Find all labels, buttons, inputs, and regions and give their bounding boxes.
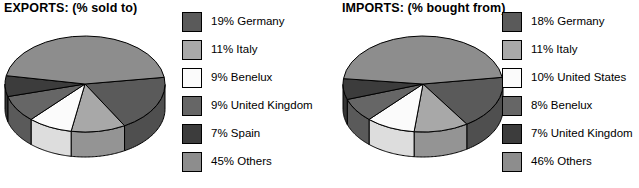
legend-swatch [502,40,522,60]
imports-legend: 18% Germany11% Italy10% United States8% … [502,8,639,176]
exports-chart-title: EXPORTS: (% sold to) [4,1,137,15]
legend-label: 7% Spain [211,128,260,140]
legend-item: 9% United Kingdom [182,92,327,120]
exports-pie-chart [0,14,180,186]
legend-label: 18% Germany [531,16,605,28]
pie-top-faces [5,36,165,132]
legend-label: 10% United States [531,72,626,84]
pie-top-faces [343,36,503,132]
legend-item: 8% Benelux [502,92,639,120]
legend-swatch [502,96,522,116]
legend-swatch [182,68,202,88]
legend-swatch [182,124,202,144]
legend-swatch [502,12,522,32]
legend-item: 9% Benelux [182,64,327,92]
legend-swatch [502,152,522,172]
legend-label: 45% Others [211,156,272,168]
pie-svg [0,14,180,186]
legend-item: 19% Germany [182,8,327,36]
exports-legend: 19% Germany11% Italy9% Benelux9% United … [182,8,327,176]
pie-charts-figure: EXPORTS: (% sold to) 19% Germany11% Ital… [0,0,639,188]
legend-swatch [182,96,202,116]
imports-chart-title: IMPORTS: (% bought from) [342,1,505,15]
legend-item: 10% United States [502,64,639,92]
legend-swatch [182,12,202,32]
legend-swatch [182,152,202,172]
pie-slice-others [6,36,164,84]
exports-chart-panel: EXPORTS: (% sold to) 19% Germany11% Ital… [0,0,320,188]
legend-label: 8% Benelux [531,100,592,112]
imports-pie-chart [338,14,518,186]
pie-svg [338,14,518,186]
legend-label: 9% Benelux [211,72,272,84]
legend-item: 11% Italy [502,36,639,64]
legend-item: 45% Others [182,148,327,176]
legend-item: 7% Spain [182,120,327,148]
legend-label: 19% Germany [211,16,285,28]
legend-swatch [182,40,202,60]
pie-slice-others [344,36,503,84]
legend-item: 11% Italy [182,36,327,64]
legend-label: 46% Others [531,156,592,168]
legend-label: 11% Italy [531,44,577,56]
legend-label: 9% United Kingdom [211,100,313,112]
imports-chart-panel: IMPORTS: (% bought from) 18% Germany11% … [330,0,639,188]
legend-item: 7% United Kingdom [502,120,639,148]
legend-label: 11% Italy [211,44,257,56]
legend-label: 7% United Kingdom [531,128,633,140]
legend-item: 18% Germany [502,8,639,36]
legend-item: 46% Others [502,148,639,176]
legend-swatch [502,124,522,144]
legend-swatch [502,68,522,88]
